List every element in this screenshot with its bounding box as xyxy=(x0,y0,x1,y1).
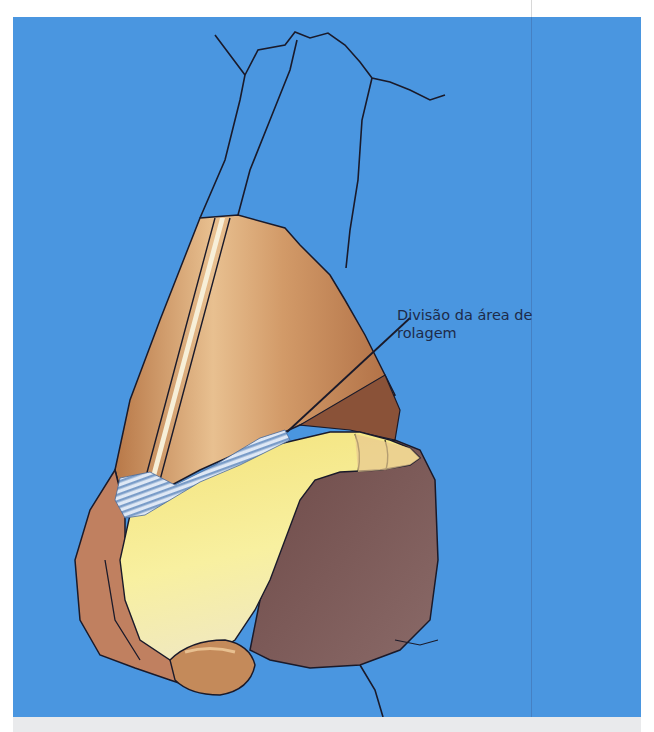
annotation-line-1: Divisão da área de xyxy=(397,306,533,324)
panel-bottom-strip xyxy=(13,717,641,732)
annotation-label: Divisão da área de rolagem xyxy=(397,306,533,342)
annotation-line-2: rolagem xyxy=(397,324,533,342)
illustration-panel xyxy=(13,17,641,717)
nose-anatomy-illustration xyxy=(13,17,641,717)
